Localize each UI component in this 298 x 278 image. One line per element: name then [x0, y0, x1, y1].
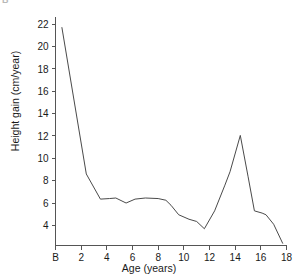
x-tick-label: 14	[230, 252, 242, 263]
y-tick-label: 6	[43, 198, 49, 209]
growth-velocity-chart: B Height gain (cm/year) Age (years) 4681…	[0, 0, 298, 278]
y-tick-label: 8	[43, 175, 49, 186]
x-axis: B24681012141618	[52, 246, 292, 263]
x-tick-label: 2	[78, 252, 84, 263]
y-axis: 46810121416182022	[37, 17, 55, 246]
x-tick-label: 18	[281, 252, 293, 263]
data-series-group	[62, 28, 283, 244]
x-tick-label: 10	[178, 252, 190, 263]
y-tick-label: 18	[37, 64, 49, 75]
x-tick-label: 12	[204, 252, 216, 263]
x-tick-label: 4	[104, 252, 110, 263]
y-tick-label: 4	[43, 220, 49, 231]
y-tick-label: 20	[37, 41, 49, 52]
plot-area: 46810121416182022 B24681012141618	[0, 0, 298, 278]
y-tick-label: 14	[37, 108, 49, 119]
y-tick-label: 22	[37, 19, 49, 30]
x-tick-label: B	[52, 252, 59, 263]
x-tick-label: 8	[155, 252, 161, 263]
x-tick-label: 6	[130, 252, 136, 263]
y-tick-label: 12	[37, 131, 49, 142]
x-tick-label: 16	[255, 252, 267, 263]
y-tick-label: 16	[37, 86, 49, 97]
y-tick-label: 10	[37, 153, 49, 164]
data-line-height-velocity	[62, 28, 283, 244]
